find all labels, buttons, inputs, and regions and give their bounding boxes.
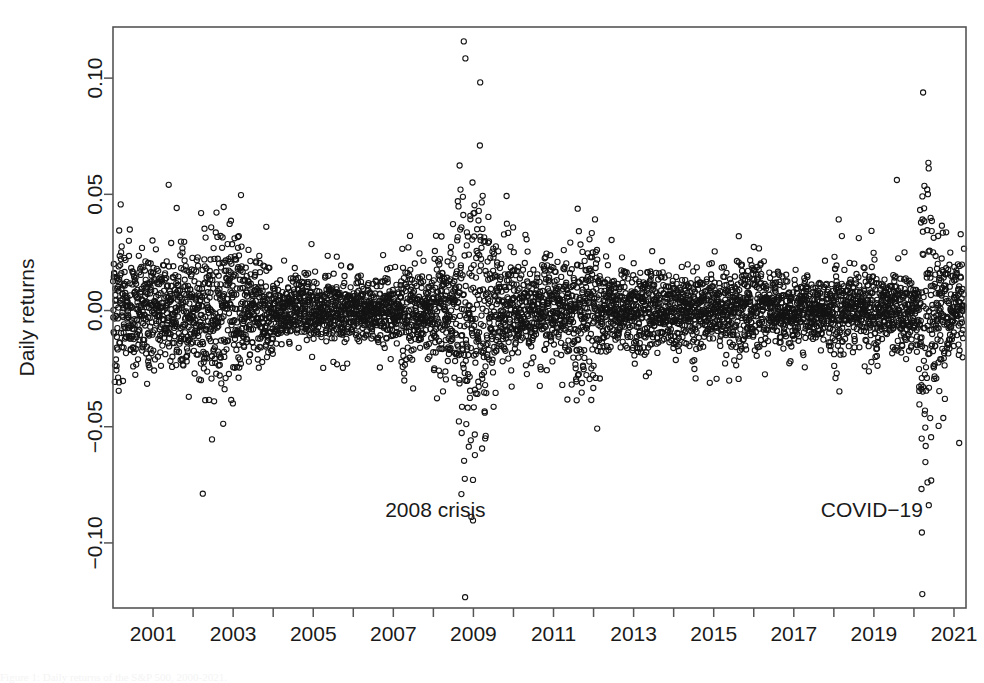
y-tick-label: 0.10 bbox=[84, 58, 107, 99]
x-tick-label: 2017 bbox=[770, 622, 817, 645]
x-tick-label: 2011 bbox=[531, 622, 576, 645]
plot-annotation: 2008 crisis bbox=[385, 498, 485, 521]
x-tick-label: 2007 bbox=[370, 622, 417, 645]
axis-labels: Daily returns bbox=[15, 259, 38, 377]
x-tick-label: 2021 bbox=[931, 622, 978, 645]
x-tick-label: 2003 bbox=[210, 622, 257, 645]
x-tick-label: 2019 bbox=[851, 622, 898, 645]
y-tick-label: −0.05 bbox=[84, 400, 107, 453]
y-tick-label: 0.00 bbox=[84, 290, 107, 331]
figure-container: 2001200320052007200920112013201520172019… bbox=[0, 0, 984, 683]
y-tick-label: −0.10 bbox=[84, 516, 107, 569]
x-tick-label: 2015 bbox=[690, 622, 737, 645]
x-tick-label: 2009 bbox=[450, 622, 497, 645]
scatter-plot: 2001200320052007200920112013201520172019… bbox=[0, 0, 984, 683]
y-axis-title: Daily returns bbox=[15, 259, 38, 377]
cut-caption: Figure 1: Daily returns of the S&P 500, … bbox=[0, 671, 360, 683]
x-tick-label: 2005 bbox=[290, 622, 337, 645]
y-tick-label: 0.05 bbox=[84, 174, 107, 215]
x-tick-label: 2013 bbox=[610, 622, 657, 645]
x-tick-label: 2001 bbox=[130, 622, 177, 645]
plot-annotation: COVID−19 bbox=[821, 498, 923, 521]
